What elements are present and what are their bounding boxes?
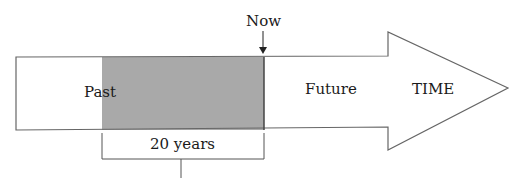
time-label: TIME (412, 80, 454, 98)
now-pointer-head (259, 47, 267, 54)
future-label: Future (305, 80, 357, 98)
shaded-period (102, 57, 264, 130)
span-label: 20 years (150, 135, 215, 153)
now-label: Now (246, 12, 281, 30)
past-label: Past (84, 83, 116, 101)
